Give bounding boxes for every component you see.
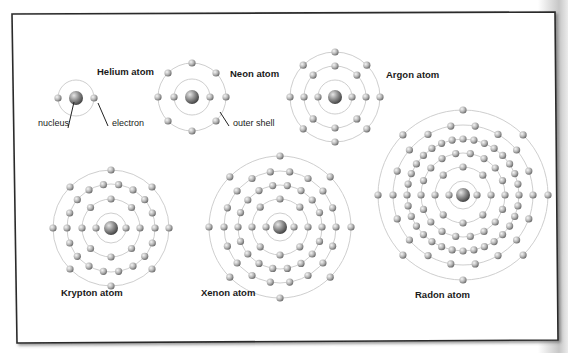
electron [472, 123, 479, 130]
electron [511, 170, 518, 177]
electron [309, 196, 316, 203]
electron [452, 150, 459, 157]
electron [362, 93, 369, 100]
electron [141, 196, 148, 203]
electron [513, 236, 520, 243]
electron [438, 155, 445, 162]
nucleus [185, 90, 199, 104]
electron [329, 204, 336, 211]
electron [276, 294, 283, 301]
electron [248, 272, 255, 279]
electron [188, 127, 195, 134]
argon-atom [286, 48, 383, 145]
nucleus [328, 90, 342, 104]
electron [420, 206, 427, 213]
electron [74, 196, 81, 203]
electron [296, 243, 303, 250]
electron [129, 263, 136, 270]
electron [515, 191, 522, 198]
electron [520, 131, 527, 138]
electron [115, 268, 122, 275]
electron [394, 168, 401, 175]
electron [529, 191, 536, 198]
electron [459, 247, 466, 254]
electron [154, 93, 161, 100]
electron [90, 94, 97, 101]
electron [314, 93, 321, 100]
electron [296, 204, 303, 211]
electron [424, 131, 431, 138]
electron [316, 209, 323, 216]
electron [506, 223, 513, 230]
electron [501, 191, 508, 198]
electron [459, 106, 466, 113]
electron [316, 238, 323, 245]
electron [226, 274, 233, 281]
electron [107, 195, 114, 202]
electron [347, 223, 354, 230]
electron [115, 181, 122, 188]
electron [348, 93, 355, 100]
electron [284, 265, 291, 272]
electron [447, 123, 454, 130]
electron [479, 211, 486, 218]
electron [318, 223, 325, 230]
nucleus [104, 221, 118, 235]
electron [525, 215, 532, 222]
electron [300, 93, 307, 100]
helium-atom-label: Helium atom [97, 66, 154, 77]
electron [129, 186, 136, 193]
cropped-caption-fragments [0, 346, 568, 353]
electron [276, 251, 283, 258]
electron [224, 204, 231, 211]
electron [297, 187, 304, 194]
electron [399, 131, 406, 138]
electron [467, 233, 474, 240]
electron [212, 117, 219, 124]
electron [66, 209, 73, 216]
electron [224, 243, 231, 250]
electron [514, 202, 521, 209]
electron [92, 224, 99, 231]
electron [267, 168, 274, 175]
electron [494, 252, 501, 259]
electron [66, 239, 73, 246]
electron [408, 170, 415, 177]
electron [431, 191, 438, 198]
nucleus-annotation: nucleus [38, 118, 69, 128]
electron [544, 191, 551, 198]
electron [310, 115, 317, 122]
electron [487, 191, 494, 198]
electron [376, 93, 383, 100]
electron [405, 202, 412, 209]
electron [148, 265, 155, 272]
electron [363, 62, 370, 69]
electron [506, 160, 513, 167]
electron [514, 181, 521, 188]
electron [413, 160, 420, 167]
electron [136, 224, 143, 231]
electron [331, 138, 338, 145]
electron [226, 173, 233, 180]
electron [331, 124, 338, 131]
electron [327, 173, 334, 180]
electron [428, 145, 435, 152]
electron [494, 131, 501, 138]
electron [257, 204, 264, 211]
argon-atom-label: Argon atom [386, 69, 439, 80]
electron [284, 182, 291, 189]
electron [269, 182, 276, 189]
electron [428, 238, 435, 245]
electron [374, 191, 381, 198]
electron [470, 137, 477, 144]
electron [286, 168, 293, 175]
electron [286, 93, 293, 100]
electron [244, 196, 251, 203]
nucleus [273, 220, 287, 234]
electron [262, 223, 269, 230]
electron [459, 276, 466, 283]
electron [480, 155, 487, 162]
electron [234, 259, 241, 266]
electron [424, 252, 431, 259]
radon-atom-label: Radon atom [415, 289, 470, 300]
